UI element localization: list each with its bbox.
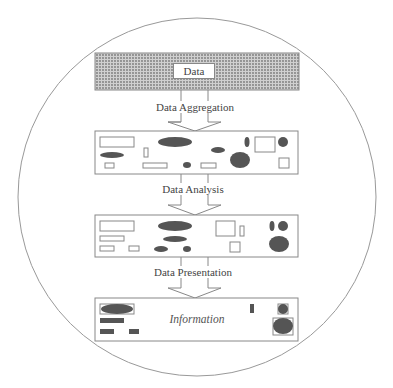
stage-label-analysis: Data Analysis	[160, 183, 225, 195]
stage-label-aggregation: Data Aggregation	[154, 101, 236, 113]
data-label: Data	[173, 63, 215, 79]
stage-label-presentation: Data Presentation	[152, 266, 234, 278]
analyzed-data-box	[95, 215, 298, 257]
information-label: Information	[170, 313, 225, 325]
aggregated-data-box	[95, 131, 298, 174]
